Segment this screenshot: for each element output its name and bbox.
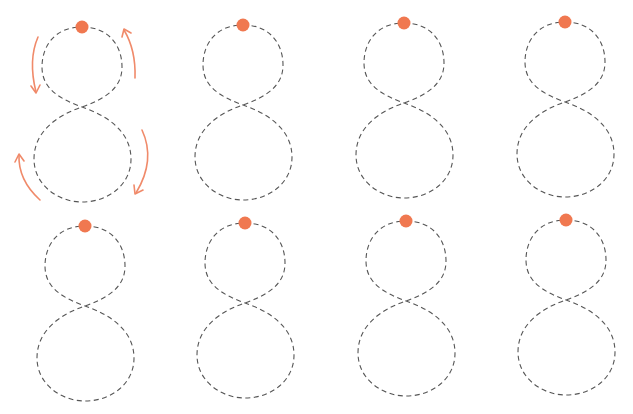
- arrow-down-icon: [134, 130, 148, 194]
- dashed-trace-path: [37, 226, 134, 401]
- dashed-trace-path: [34, 27, 131, 202]
- dashed-trace-path: [517, 22, 614, 197]
- start-dot: [559, 16, 572, 29]
- start-dot: [239, 217, 252, 230]
- start-dot: [560, 214, 573, 227]
- arrow-up-icon: [15, 154, 40, 200]
- start-dot: [398, 17, 411, 30]
- figure-eight-r2c2: [197, 217, 294, 399]
- figure-eight-r2c1: [37, 220, 134, 402]
- figure-eight-r1c2: [195, 19, 292, 201]
- start-dot: [79, 220, 92, 233]
- figure-eight-r1c4: [517, 16, 614, 198]
- figure-eight-r1c3: [356, 17, 453, 199]
- dashed-trace-path: [356, 23, 453, 198]
- direction-arrows: [15, 29, 148, 200]
- dashed-trace-path: [358, 221, 455, 396]
- arrow-down-icon: [31, 37, 40, 93]
- figure-eight-r2c3: [358, 215, 455, 397]
- dashed-trace-path: [197, 223, 294, 398]
- start-dot: [237, 19, 250, 32]
- figure-eight-r2c4: [518, 214, 615, 396]
- start-dot: [76, 21, 89, 34]
- figure-eight-worksheet: [0, 0, 633, 414]
- figure-eight-r1c1: [34, 21, 131, 203]
- arrow-up-icon: [122, 29, 135, 78]
- dashed-trace-path: [195, 25, 292, 200]
- dashed-trace-path: [518, 220, 615, 395]
- start-dot: [400, 215, 413, 228]
